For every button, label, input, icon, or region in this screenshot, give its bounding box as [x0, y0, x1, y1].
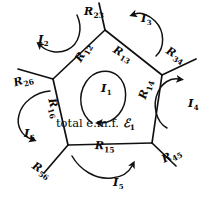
circuit-diagram: R23 R13 R34 R12 R26 R16 R14 R15 R56 R45 …	[0, 0, 209, 199]
current-label-I2: I2	[38, 34, 48, 46]
current-label-I6: I6	[24, 128, 34, 140]
emf-prefix-text: total e.m.f.	[56, 116, 123, 130]
emf-symbol: ℰ	[123, 116, 130, 130]
current-label-I5: I5	[113, 177, 123, 189]
current-arrow-I5	[72, 156, 132, 178]
current-label-I3: I3	[141, 13, 151, 25]
emf-subscript: 1	[130, 123, 135, 132]
current-label-I4: I4	[188, 98, 198, 110]
resistor-label-R26: R26	[12, 72, 34, 88]
current-label-I1: I1	[101, 83, 111, 95]
resistor-label-R15: R15	[95, 140, 115, 152]
resistor-label-R23: R23	[84, 6, 104, 17]
total-emf-caption: total e.m.f. ℰ1	[56, 116, 135, 130]
